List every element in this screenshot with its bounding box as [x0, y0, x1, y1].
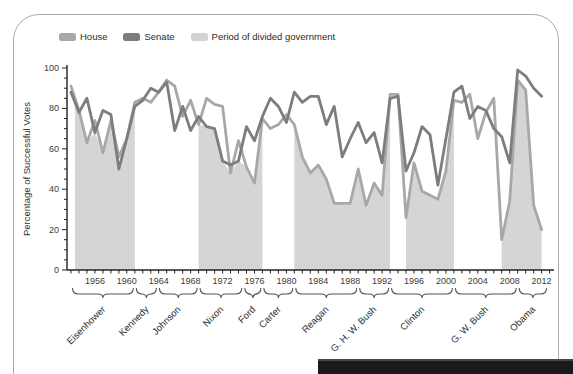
svg-text:G. W. Bush: G. W. Bush	[448, 304, 490, 346]
svg-text:Carter: Carter	[256, 304, 282, 330]
presidential-success-chart: 0204060801001956196019641968197219761980…	[0, 0, 573, 374]
svg-text:1960: 1960	[117, 276, 137, 286]
svg-text:1964: 1964	[149, 276, 169, 286]
svg-text:2000: 2000	[436, 276, 456, 286]
bottom-dark-bar	[318, 359, 573, 374]
svg-text:Clinton: Clinton	[398, 304, 427, 333]
svg-text:1976: 1976	[244, 276, 264, 286]
svg-text:1988: 1988	[340, 276, 360, 286]
svg-text:Eisenhower: Eisenhower	[64, 304, 107, 347]
svg-text:2012: 2012	[532, 276, 552, 286]
svg-text:60: 60	[49, 144, 59, 154]
svg-text:1980: 1980	[276, 276, 296, 286]
svg-text:Obama: Obama	[508, 303, 538, 333]
svg-text:G. H. W. Bush: G. H. W. Bush	[328, 304, 378, 354]
svg-text:Nixon: Nixon	[200, 304, 225, 329]
svg-text:80: 80	[49, 103, 59, 113]
svg-text:1956: 1956	[85, 276, 105, 286]
svg-text:1996: 1996	[404, 276, 424, 286]
svg-text:0: 0	[54, 265, 59, 275]
svg-text:1968: 1968	[181, 276, 201, 286]
svg-text:1972: 1972	[213, 276, 233, 286]
svg-text:1984: 1984	[308, 276, 328, 286]
svg-text:Percentage of Successful Votes: Percentage of Successful Votes	[21, 102, 32, 236]
svg-text:100: 100	[44, 63, 59, 73]
svg-text:1992: 1992	[372, 276, 392, 286]
svg-text:Johnson: Johnson	[150, 304, 183, 337]
svg-text:2008: 2008	[500, 276, 520, 286]
svg-text:Reagan: Reagan	[299, 304, 330, 335]
svg-text:Kennedy: Kennedy	[117, 303, 151, 337]
svg-text:20: 20	[49, 225, 59, 235]
svg-text:2004: 2004	[468, 276, 488, 286]
svg-text:40: 40	[49, 184, 59, 194]
svg-text:Ford: Ford	[236, 304, 258, 326]
